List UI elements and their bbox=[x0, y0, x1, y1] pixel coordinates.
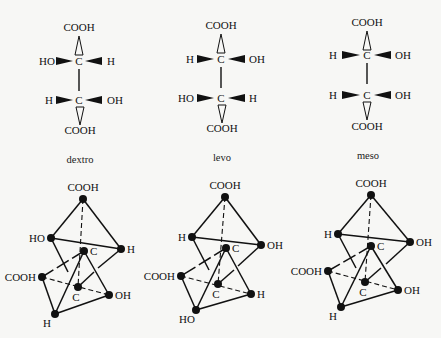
label-left: COOH bbox=[144, 270, 175, 282]
solid-wedge-right bbox=[374, 51, 391, 59]
tetrahedron-meso: COOH H OH C COOH C OH H bbox=[291, 177, 432, 322]
lower-left-label: H bbox=[45, 94, 53, 106]
upper-right-label: OH bbox=[395, 49, 411, 61]
atom-node bbox=[177, 272, 185, 280]
caption-meso: meso bbox=[357, 150, 379, 161]
solid-wedge-left bbox=[342, 91, 360, 99]
upper-left-label: H bbox=[329, 49, 337, 61]
bottom-group-label: COOH bbox=[64, 124, 95, 136]
label-upper-left: HO bbox=[29, 232, 45, 244]
atom-node bbox=[105, 291, 113, 299]
solid-wedge-left bbox=[56, 96, 73, 104]
bottom-group-label: COOH bbox=[351, 120, 382, 132]
solid-wedge-left bbox=[342, 51, 360, 59]
label-c-upper: C bbox=[377, 240, 384, 252]
atom-node bbox=[221, 193, 229, 201]
fischer-levo: COOH C H OH C HO H COOH levo bbox=[178, 19, 265, 163]
solid-wedge-right bbox=[228, 94, 245, 102]
solid-wedge-left bbox=[197, 94, 214, 102]
label-bottom: HO bbox=[179, 313, 195, 325]
label-top: COOH bbox=[209, 179, 240, 191]
lower-carbon-label: C bbox=[363, 89, 370, 101]
lower-left-label: HO bbox=[178, 92, 194, 104]
upper-right-label: OH bbox=[249, 53, 265, 65]
atom-node bbox=[257, 241, 265, 249]
bottom-group-label: COOH bbox=[206, 122, 237, 134]
atom-node bbox=[337, 303, 345, 311]
upper-left-label: HO bbox=[39, 55, 55, 67]
hashed-wedge-up bbox=[363, 31, 371, 50]
hashed-wedge-down bbox=[76, 107, 84, 125]
atom-node bbox=[188, 233, 196, 241]
label-top: COOH bbox=[67, 181, 98, 193]
hashed-wedge-up bbox=[217, 34, 225, 53]
upper-carbon-label: C bbox=[363, 49, 370, 61]
label-bottom: H bbox=[43, 317, 51, 329]
atom-node bbox=[79, 195, 87, 203]
fischer-meso: COOH C H OH C H OH COOH meso bbox=[329, 16, 411, 161]
solid-wedge-right bbox=[374, 91, 391, 99]
solid-wedge-right bbox=[228, 55, 245, 63]
atom-node bbox=[324, 267, 332, 275]
carbon-node bbox=[222, 244, 230, 252]
lower-right-label: OH bbox=[107, 94, 123, 106]
carbon-node bbox=[74, 283, 82, 291]
carbon-node bbox=[361, 278, 369, 286]
label-upper-left: H bbox=[324, 228, 332, 240]
upper-carbon-label: C bbox=[75, 55, 82, 67]
caption-levo: levo bbox=[213, 152, 231, 163]
carbon-node bbox=[367, 242, 375, 250]
solid-wedge-right bbox=[85, 96, 102, 104]
label-upper-left: H bbox=[178, 231, 186, 243]
label-upper-right: OH bbox=[267, 239, 283, 251]
lower-carbon-label: C bbox=[75, 94, 82, 106]
atom-node bbox=[406, 238, 414, 246]
label-left: COOH bbox=[5, 271, 36, 283]
label-c-upper: C bbox=[90, 245, 97, 257]
lower-right-label: OH bbox=[395, 89, 411, 101]
atom-node bbox=[367, 191, 375, 199]
atom-node bbox=[394, 286, 402, 294]
atom-node bbox=[117, 245, 125, 253]
upper-carbon-label: C bbox=[217, 53, 224, 65]
top-group-label: COOH bbox=[351, 16, 382, 28]
solid-wedge-right bbox=[85, 57, 102, 65]
label-bottom: H bbox=[329, 310, 337, 322]
label-c-lower: C bbox=[359, 286, 366, 298]
hashed-wedge-down bbox=[218, 105, 226, 123]
solid-wedge-left bbox=[56, 57, 73, 65]
tetrahedron-dextro: COOH HO H C COOH C OH H bbox=[5, 181, 135, 329]
label-upper-right: H bbox=[127, 243, 135, 255]
label-lower-right: H bbox=[257, 288, 265, 300]
label-c-lower: C bbox=[212, 288, 219, 300]
top-group-label: COOH bbox=[63, 21, 94, 33]
label-c-lower: C bbox=[72, 291, 79, 303]
upper-left-label: H bbox=[186, 53, 194, 65]
carbon-node bbox=[80, 247, 88, 255]
atom-node bbox=[38, 273, 46, 281]
lower-right-label: H bbox=[249, 92, 257, 104]
caption-dextro: dextro bbox=[67, 154, 94, 165]
label-lower-right: OH bbox=[404, 284, 420, 296]
atom-node bbox=[247, 290, 255, 298]
atom-node bbox=[47, 234, 55, 242]
lower-left-label: H bbox=[329, 89, 337, 101]
solid-wedge-left bbox=[197, 55, 214, 63]
atom-node bbox=[51, 310, 59, 318]
tetrahedron-levo: COOH H OH C COOH C H HO bbox=[144, 179, 283, 325]
label-lower-right: OH bbox=[115, 289, 131, 301]
tartaric-acid-stereoisomers-diagram: COOH C HO H C H OH COOH dextro COOH C H … bbox=[0, 0, 441, 338]
hashed-wedge-down bbox=[363, 102, 371, 120]
label-left: COOH bbox=[291, 265, 322, 277]
label-upper-right: OH bbox=[416, 236, 432, 248]
atom-node bbox=[334, 230, 342, 238]
upper-right-label: H bbox=[107, 55, 115, 67]
carbon-node bbox=[214, 280, 222, 288]
lower-carbon-label: C bbox=[217, 92, 224, 104]
fischer-dextro: COOH C HO H C H OH COOH dextro bbox=[39, 21, 123, 165]
label-top: COOH bbox=[355, 177, 386, 189]
label-c-upper: C bbox=[232, 242, 239, 254]
top-group-label: COOH bbox=[205, 19, 236, 31]
hashed-wedge-up bbox=[75, 36, 83, 55]
